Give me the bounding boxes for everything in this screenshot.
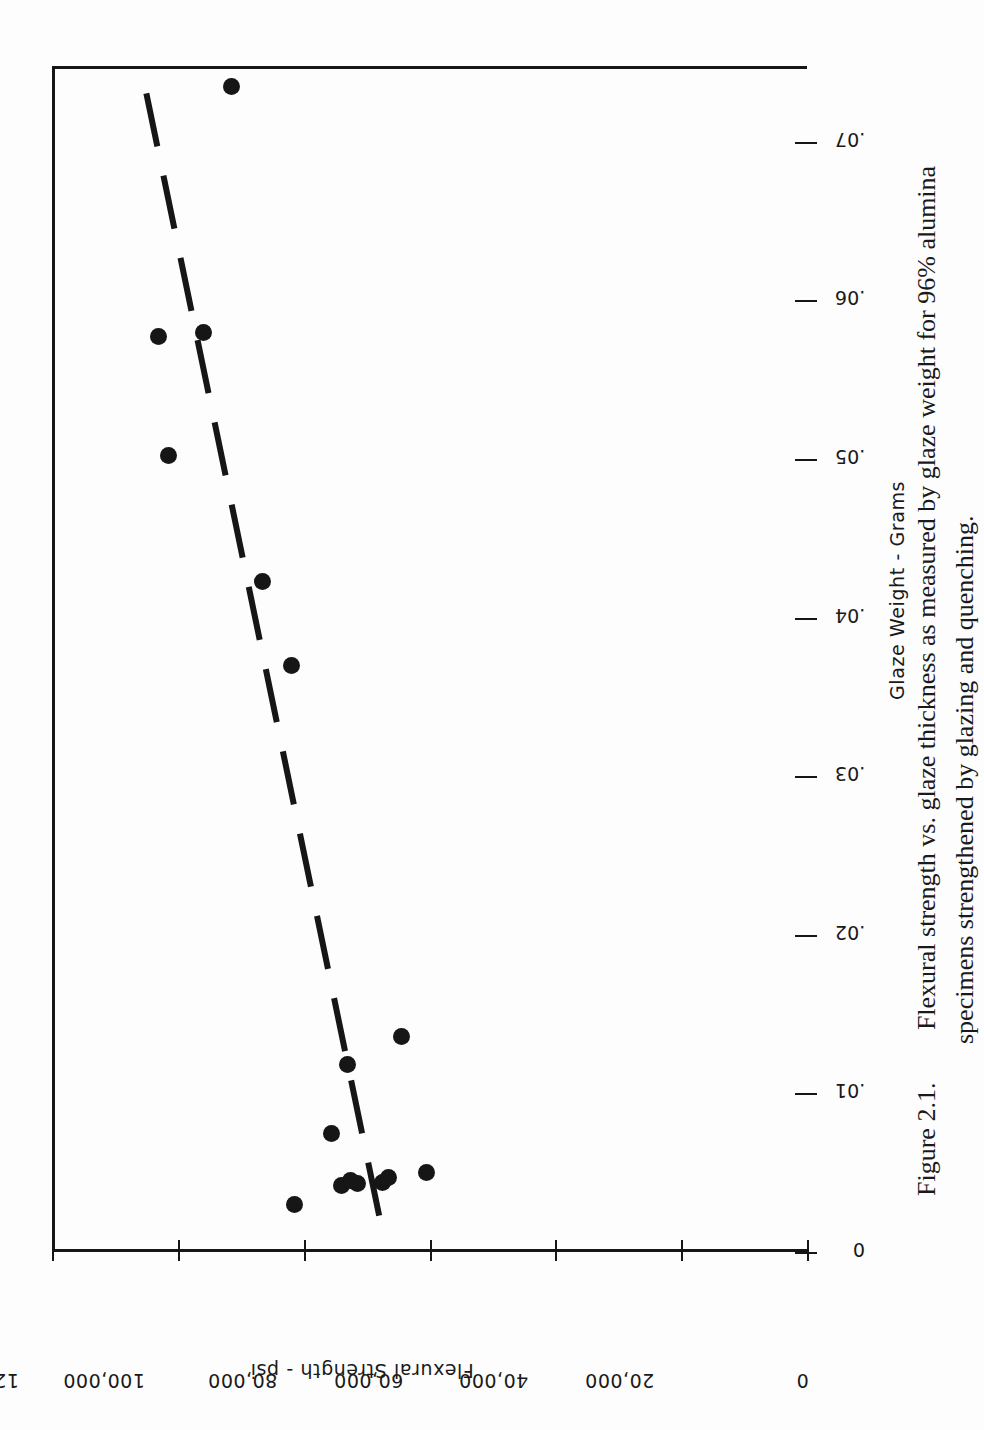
figure-number: Figure 2.1. [912, 1083, 941, 1196]
x-axis-tick-label: .01 [835, 1080, 865, 1102]
x-axis-tick [795, 1252, 817, 1254]
data-point [254, 573, 271, 590]
x-axis-tick-label: .07 [835, 129, 865, 151]
caption-line-2: specimens strengthened by glazing and qu… [950, 515, 979, 1044]
y-axis-title: Flexural Strength - psi [250, 1360, 474, 1382]
data-point [283, 657, 300, 674]
x-axis-tick-label: .05 [835, 446, 865, 468]
data-point [323, 1125, 340, 1142]
trend-line [52, 66, 807, 1252]
y-axis-tick-label: 100,000 [63, 1370, 145, 1392]
plot-area: 020,00040,00060,00080,000100,000120,000 … [52, 66, 807, 1252]
caption-line-1: Flexural strength vs. glaze thickness as… [912, 166, 941, 1030]
x-axis-title: Glaze Weight - Grams [886, 481, 908, 700]
data-point [380, 1169, 397, 1186]
data-point [393, 1028, 410, 1045]
data-point [223, 78, 240, 95]
data-point [418, 1164, 435, 1181]
x-axis-tick-label: .04 [835, 605, 865, 627]
data-point [286, 1196, 303, 1213]
x-axis-tick-label: .03 [835, 763, 865, 785]
y-axis-tick-label: 0 [796, 1370, 809, 1392]
y-axis-tick-label: 120,000 [0, 1370, 19, 1392]
x-axis-tick-label: .02 [835, 922, 865, 944]
y-axis-tick [807, 1240, 809, 1261]
figure-caption: Figure 2.1. Flexural strength vs. glaze … [908, 76, 983, 1196]
x-axis-tick-label: .06 [835, 287, 865, 309]
y-axis-tick-label: 20,000 [585, 1370, 654, 1392]
data-point [195, 324, 212, 341]
x-axis-tick-label: 0 [853, 1239, 865, 1261]
